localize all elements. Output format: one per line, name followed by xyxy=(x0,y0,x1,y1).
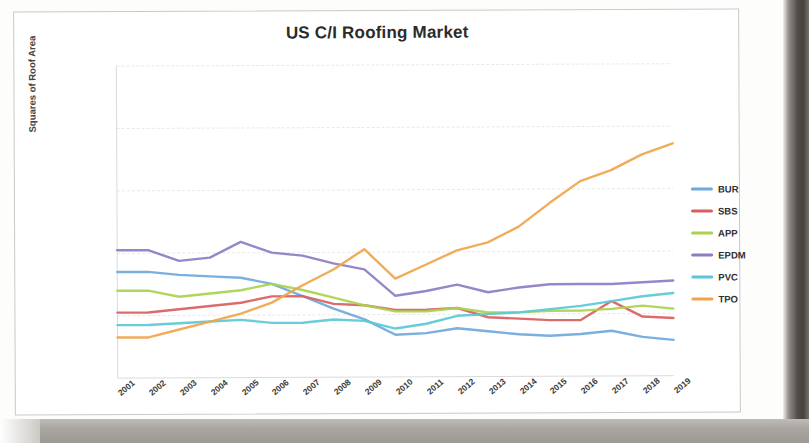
y-axis-title: Squares of Roof Area xyxy=(26,0,43,133)
series-line-sbs xyxy=(117,295,673,322)
left-axis-line xyxy=(116,66,117,378)
bottom-shadow-fade xyxy=(0,419,40,443)
chart-title: US C/I Roofing Market xyxy=(14,21,740,44)
series-line-epdm xyxy=(117,240,673,297)
plot-area xyxy=(102,58,683,391)
legend-swatch-pvc xyxy=(691,275,713,278)
gridline xyxy=(116,64,672,66)
legend-label: PVC xyxy=(718,271,738,282)
legend-swatch-tpo xyxy=(691,297,713,300)
gridline xyxy=(117,189,673,191)
legend-item-bur[interactable]: BUR xyxy=(691,177,771,199)
chart-legend: BURSBSAPPEPDMPVCTPO xyxy=(691,177,772,309)
bottom-shadow-band xyxy=(30,419,809,443)
chart-card: US C/I Roofing Market Squares of Roof Ar… xyxy=(13,8,741,415)
legend-label: TPO xyxy=(718,293,738,304)
series-line-tpo xyxy=(117,143,674,337)
legend-swatch-sbs xyxy=(691,209,713,212)
legend-item-epdm[interactable]: EPDM xyxy=(691,243,771,265)
series-lines xyxy=(117,143,674,342)
legend-item-sbs[interactable]: SBS xyxy=(691,199,771,221)
gridline xyxy=(117,126,673,128)
gridline xyxy=(117,251,673,253)
line-chart-svg xyxy=(102,58,683,391)
legend-item-tpo[interactable]: TPO xyxy=(691,287,771,309)
legend-item-app[interactable]: APP xyxy=(691,221,771,243)
legend-swatch-bur xyxy=(691,187,713,190)
page-edge-shadow xyxy=(783,0,809,424)
legend-swatch-app xyxy=(691,231,713,234)
legend-label: BUR xyxy=(718,183,739,194)
legend-item-pvc[interactable]: PVC xyxy=(691,265,771,287)
axis-lines xyxy=(116,64,673,378)
legend-label: SBS xyxy=(718,205,738,216)
legend-label: EPDM xyxy=(718,249,746,260)
legend-label: APP xyxy=(718,227,738,238)
legend-swatch-epdm xyxy=(691,253,713,256)
